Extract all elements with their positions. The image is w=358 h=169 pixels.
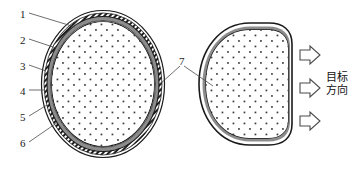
right-deformed-cross-section: [199, 23, 294, 145]
cross-section-figure: [0, 0, 358, 169]
callout-1: 1: [20, 9, 26, 20]
target-direction-label: 目标 方向: [326, 71, 348, 97]
arrow-top-icon: [300, 46, 320, 64]
callout-7: 7: [179, 56, 185, 67]
left-circular-cross-section: [42, 11, 165, 158]
target-direction-line2: 方向: [326, 84, 348, 97]
leader-line-6: [29, 122, 58, 142]
target-direction-line1: 目标: [326, 71, 348, 84]
arrow-bottom-icon: [300, 112, 320, 130]
callout-6: 6: [20, 138, 26, 149]
callout-4: 4: [20, 86, 26, 97]
callout-2: 2: [20, 35, 26, 46]
arrow-middle-icon: [300, 79, 320, 97]
leader-line-1: [29, 13, 75, 27]
callout-5: 5: [20, 112, 26, 123]
direction-arrows: [300, 46, 320, 130]
leader-line-5: [29, 105, 47, 116]
callout-3: 3: [20, 61, 26, 72]
